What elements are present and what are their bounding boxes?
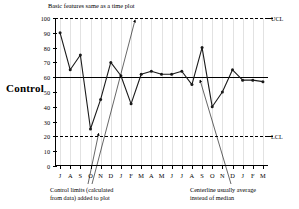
plot-area: 0102030405060708090100 JASONDJFMAMJJASON… xyxy=(55,18,268,166)
data-point-M-8 xyxy=(140,73,143,76)
data-point-F-7 xyxy=(130,102,133,105)
LCL-label: LCL xyxy=(271,133,283,140)
data-point-N-4 xyxy=(99,98,102,101)
data-point-M-10 xyxy=(160,73,163,76)
x-tick-label-19: F xyxy=(251,172,255,179)
x-tick-label-13: A xyxy=(190,172,195,179)
series-path xyxy=(60,33,263,129)
y-tick-label-50: 50 xyxy=(44,89,50,96)
data-point-J-6 xyxy=(119,74,122,77)
y-tick-label-10: 10 xyxy=(44,148,50,155)
data-point-J-0 xyxy=(59,31,62,34)
y-tick-label-0: 0 xyxy=(47,163,50,170)
y-tick-label-90: 90 xyxy=(44,29,50,36)
data-point-O-15 xyxy=(211,105,214,108)
y-tick-0: 0 xyxy=(53,166,57,167)
x-tick-label-18: J xyxy=(241,172,244,179)
x-tick-label-5: D xyxy=(108,172,113,179)
x-tick-label-16: N xyxy=(220,172,225,179)
y-tick-label-40: 40 xyxy=(44,103,50,110)
x-tick-label-11: J xyxy=(170,172,173,179)
data-point-J-11 xyxy=(170,73,173,76)
data-series-line xyxy=(55,18,268,166)
data-point-O-3 xyxy=(89,128,92,131)
x-tick-label-8: M xyxy=(138,172,144,179)
y-tick-label-70: 70 xyxy=(44,59,50,66)
data-point-A-9 xyxy=(150,70,153,73)
UCL-label: UCL xyxy=(271,15,283,22)
x-tick-label-6: J xyxy=(120,172,123,179)
control-limits-annotation: Control limits (calculated from data) ad… xyxy=(50,186,160,203)
x-tick-label-20: M xyxy=(260,172,266,179)
data-point-A-1 xyxy=(69,68,72,71)
data-point-F-19 xyxy=(251,79,254,82)
x-tick-label-2: S xyxy=(79,172,83,179)
y-tick-label-30: 30 xyxy=(44,118,50,125)
x-tick-label-17: D xyxy=(230,172,235,179)
x-tick-label-1: A xyxy=(68,172,73,179)
x-tick-label-10: M xyxy=(159,172,165,179)
data-point-S-2 xyxy=(79,54,82,57)
control-limits-annotation-line1: Control limits (calculated xyxy=(50,186,160,194)
centerline-annotation: Centerline usually average instead of me… xyxy=(190,186,298,203)
x-tick-label-4: N xyxy=(98,172,103,179)
y-tick-label-20: 20 xyxy=(44,133,50,140)
data-point-A-13 xyxy=(190,83,193,86)
y-tick-label-100: 100 xyxy=(41,15,50,22)
control-limits-annotation-line2: from data) added to plot xyxy=(50,194,160,202)
control-chart-figure: Control Basic features same as a time pl… xyxy=(0,0,299,209)
chart-title: Basic features same as a time plot xyxy=(48,2,135,9)
figure-side-label: Control xyxy=(3,82,47,94)
x-tick-label-7: F xyxy=(129,172,133,179)
x-tick-label-12: J xyxy=(181,172,184,179)
x-tick-label-9: A xyxy=(149,172,154,179)
x-tick-label-0: J xyxy=(59,172,62,179)
y-tick-label-60: 60 xyxy=(44,74,50,81)
data-point-J-12 xyxy=(180,70,183,73)
centerline-annotation-line1: Centerline usually average xyxy=(190,186,298,194)
data-point-N-16 xyxy=(221,91,224,94)
data-point-D-5 xyxy=(109,61,112,64)
centerline-annotation-line2: instead of median xyxy=(190,194,298,202)
data-point-J-18 xyxy=(241,79,244,82)
data-point-D-17 xyxy=(231,68,234,71)
y-tick-label-80: 80 xyxy=(44,44,50,51)
data-point-M-20 xyxy=(261,80,264,83)
data-point-S-14 xyxy=(201,46,204,49)
x-tick-label-15: O xyxy=(210,172,215,179)
x-tick-label-3: O xyxy=(88,172,93,179)
x-tick-label-14: S xyxy=(200,172,204,179)
